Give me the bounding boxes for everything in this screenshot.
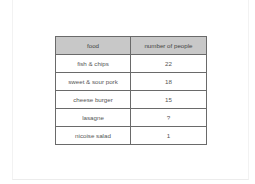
food-survey-table: food number of people fish & chips 22 sw… xyxy=(55,36,207,145)
food-cell: cheese burger xyxy=(56,91,131,109)
count-cell: 1 xyxy=(131,127,207,145)
header-food: food xyxy=(56,37,131,55)
table-row: lasagne ? xyxy=(56,109,207,127)
table-row: nicoise salad 1 xyxy=(56,127,207,145)
header-number-of-people: number of people xyxy=(131,37,207,55)
food-cell: sweet & sour pork xyxy=(56,73,131,91)
food-cell: nicoise salad xyxy=(56,127,131,145)
table-row: cheese burger 15 xyxy=(56,91,207,109)
table-header-row: food number of people xyxy=(56,37,207,55)
food-cell: fish & chips xyxy=(56,55,131,73)
food-cell: lasagne xyxy=(56,109,131,127)
count-cell: ? xyxy=(131,109,207,127)
count-cell: 22 xyxy=(131,55,207,73)
table-row: fish & chips 22 xyxy=(56,55,207,73)
count-cell: 15 xyxy=(131,91,207,109)
table-row: sweet & sour pork 18 xyxy=(56,73,207,91)
count-cell: 18 xyxy=(131,73,207,91)
